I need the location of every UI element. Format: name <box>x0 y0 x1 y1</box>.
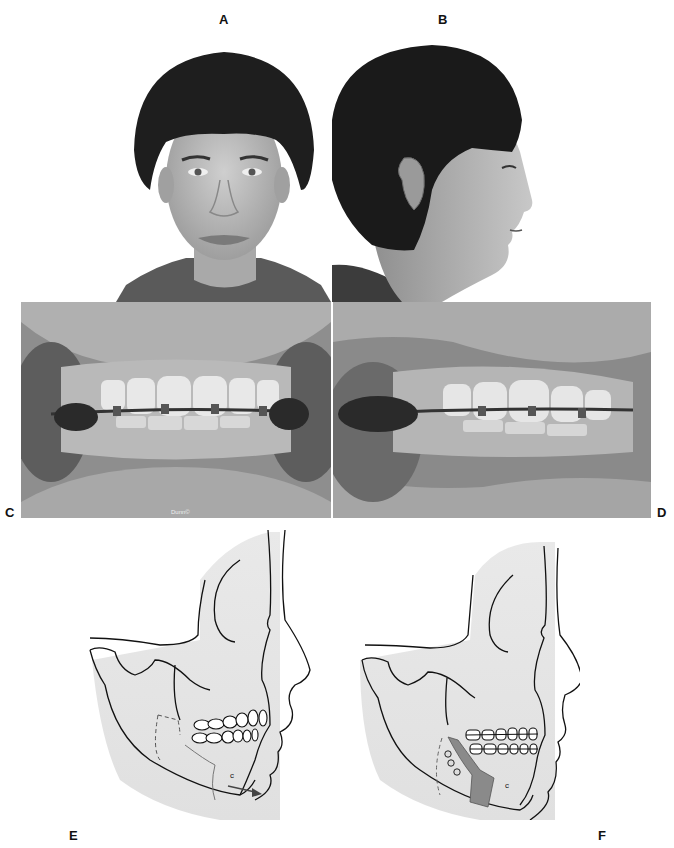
panel-label-a: A <box>219 12 228 27</box>
photo-intraoral-oblique <box>333 302 651 518</box>
panel-label-f: F <box>598 828 606 843</box>
diagram-preoperative: c <box>80 520 320 820</box>
photo-intraoral-frontal: Dunn© <box>21 302 331 518</box>
svg-text:c: c <box>505 781 509 790</box>
panel-label-c: C <box>5 505 14 520</box>
panel-label-d: D <box>657 505 666 520</box>
svg-text:c: c <box>230 771 234 780</box>
panel-label-e: E <box>69 828 78 843</box>
diagram-postoperative: c <box>320 520 580 820</box>
photo-frontal-face <box>116 40 331 302</box>
photo-profile-face <box>332 40 562 302</box>
panel-label-b: B <box>438 12 447 27</box>
watermark: Dunn© <box>171 509 190 515</box>
